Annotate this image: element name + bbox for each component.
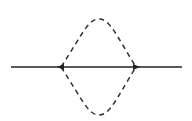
feynman-diagram	[0, 0, 192, 121]
arrow-left-icon	[57, 64, 64, 70]
lower-dashed-arc	[61, 67, 136, 115]
upper-dashed-arc	[61, 19, 136, 67]
arrow-right-icon	[133, 64, 140, 70]
